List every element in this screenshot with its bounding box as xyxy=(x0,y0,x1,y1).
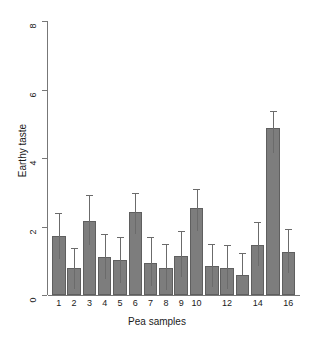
y-tick-mark xyxy=(42,158,47,159)
error-bar-cap xyxy=(55,213,62,214)
plot-area xyxy=(48,18,300,297)
error-bar-cap xyxy=(101,234,108,235)
error-bar-line xyxy=(105,234,106,279)
y-tick-label-text: 0 xyxy=(27,297,39,302)
error-bar-cap xyxy=(71,248,78,249)
error-bar-line xyxy=(288,229,289,272)
error-bar-line xyxy=(227,245,228,289)
error-bar-line xyxy=(59,213,60,259)
y-axis-title: Earthy taste xyxy=(17,81,28,221)
error-bar-line xyxy=(120,237,121,283)
x-axis-title: Pea samples xyxy=(0,316,314,327)
error-bar-line xyxy=(197,189,198,231)
bar xyxy=(266,128,280,295)
error-bar-cap xyxy=(178,231,185,232)
error-bar-cap xyxy=(193,189,200,190)
error-bar-line xyxy=(135,193,136,234)
error-bar-line xyxy=(89,195,90,245)
x-axis-line xyxy=(48,295,300,296)
error-bar-line xyxy=(273,111,274,152)
error-bar-cap xyxy=(224,245,231,246)
error-bar-line xyxy=(74,248,75,289)
bar xyxy=(236,275,250,295)
y-tick-mark xyxy=(42,21,47,22)
error-bar-line xyxy=(258,222,259,265)
error-bar-cap xyxy=(285,229,292,230)
error-bar-cap xyxy=(117,237,124,238)
x-tick-label: 10 xyxy=(187,297,207,309)
bar-chart-figure: 02468 12345678910121416 Earthy taste Pea… xyxy=(0,0,314,344)
y-tick-label: 4 xyxy=(26,152,40,164)
error-bar-line xyxy=(166,244,167,290)
error-bar-cap xyxy=(162,244,169,245)
y-tick-mark xyxy=(42,90,47,91)
error-bar-line xyxy=(151,237,152,285)
y-tick-label: 6 xyxy=(26,84,40,96)
y-axis-line xyxy=(47,21,48,295)
error-bar-cap xyxy=(239,253,246,254)
y-tick-label: 8 xyxy=(26,15,40,27)
error-bar-line xyxy=(212,244,213,288)
error-bar-line xyxy=(181,231,182,278)
y-tick-label: 0 xyxy=(26,289,40,301)
y-tick-mark xyxy=(42,227,47,228)
error-bar-cap xyxy=(147,237,154,238)
error-bar-cap xyxy=(254,222,261,223)
y-tick-label-text: 2 xyxy=(27,229,39,234)
error-bar-cap xyxy=(270,111,277,112)
y-tick-label-text: 6 xyxy=(27,92,39,97)
error-bar-line xyxy=(242,253,243,275)
error-bar-cap xyxy=(132,193,139,194)
x-tick-label: 16 xyxy=(278,297,298,309)
y-tick-label: 2 xyxy=(26,221,40,233)
x-tick-label: 14 xyxy=(248,297,268,309)
error-bar-cap xyxy=(86,195,93,196)
x-tick-label: 12 xyxy=(217,297,237,309)
error-bar-cap xyxy=(208,244,215,245)
y-tick-label-text: 8 xyxy=(27,23,39,28)
y-tick-mark xyxy=(42,295,47,296)
y-tick-label-text: 4 xyxy=(27,160,39,165)
